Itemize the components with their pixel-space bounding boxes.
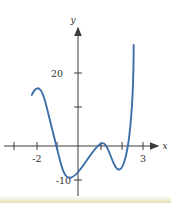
- x-axis: [4, 142, 160, 150]
- y-axis-arrowhead: [74, 27, 82, 37]
- graph-figure: 20 -10 -2 3 y x: [0, 0, 171, 203]
- x-axis-label: x: [162, 141, 167, 151]
- page-edge-band: [0, 196, 171, 203]
- x-axis-arrowhead: [150, 142, 160, 150]
- y-tick-label-20: 20: [51, 68, 63, 79]
- y-tick-label--10: -10: [56, 175, 71, 186]
- y-axis: [74, 27, 82, 197]
- x-tick-label-3: 3: [140, 153, 146, 164]
- y-axis-label: y: [69, 15, 76, 25]
- polynomial-curve: [32, 45, 134, 178]
- coordinate-plot: 20 -10 -2 3 y x: [0, 0, 171, 203]
- x-tick-label--2: -2: [32, 153, 41, 164]
